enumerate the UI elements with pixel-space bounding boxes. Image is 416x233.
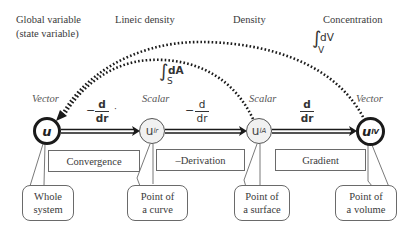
- surface-integral-lower: S: [167, 76, 173, 86]
- callout-point-volume: Point of a volume: [335, 185, 397, 221]
- op2-denominator: dr: [197, 113, 208, 124]
- box-gradient: Gradient: [275, 149, 366, 171]
- surface-integrand: dA: [168, 64, 184, 76]
- type-label-ulr: Scalar: [142, 93, 169, 104]
- node-ulA: ulA: [246, 118, 272, 144]
- op3-numerator: d: [303, 99, 311, 110]
- node-ulr-symbol: u: [146, 124, 154, 138]
- callout-line2: a curve: [142, 203, 173, 216]
- callout-point-curve: Point of a curve: [127, 185, 188, 221]
- callout-point-surface: Point of a surface: [234, 185, 290, 221]
- callout-line2: a surface: [243, 203, 281, 216]
- node-ulV-subscript: lV: [371, 128, 379, 136]
- type-label-ulV: Vector: [356, 93, 383, 104]
- label-lineic-density: Lineic density: [115, 14, 175, 26]
- type-label-ulA: Scalar: [249, 93, 276, 104]
- type-label-u: Vector: [32, 93, 59, 104]
- op3-denominator: dr: [301, 113, 314, 124]
- node-ulA-subscript: lA: [259, 127, 266, 135]
- callout-line1: Point of: [349, 190, 383, 203]
- node-ulA-symbol: u: [252, 124, 260, 138]
- double-arrows: [61, 126, 357, 136]
- diagram-canvas: Global variable (state variable) Lineic …: [0, 0, 416, 233]
- callout-whole-system: Whole system: [22, 185, 74, 221]
- node-ulV: ulV: [356, 117, 385, 146]
- box-convergence: Convergence: [48, 150, 140, 172]
- op1-sign: −: [86, 104, 95, 117]
- label-concentration: Concentration: [323, 14, 382, 26]
- node-ulV-symbol: u: [362, 124, 371, 139]
- label-density: Density: [233, 14, 266, 26]
- op2-sign: −: [185, 104, 194, 117]
- node-ulr: ulr: [139, 118, 165, 144]
- op1-numerator: d: [98, 99, 106, 110]
- callout-line1: Point of: [141, 190, 175, 203]
- op2-numerator: d: [199, 99, 206, 110]
- callout-line1: Whole: [34, 190, 62, 203]
- node-u-symbol: u: [42, 124, 51, 139]
- volume-integral-lower: V: [318, 45, 324, 55]
- op1-dot: ·: [114, 104, 117, 114]
- volume-integrand: dV: [320, 31, 334, 43]
- label-global-variable: Global variable: [16, 14, 81, 26]
- op3-fraction: d dr: [300, 99, 314, 124]
- node-u: u: [33, 117, 61, 145]
- node-ulr-subscript: lr: [153, 127, 158, 135]
- callout-line2: a volume: [347, 203, 386, 216]
- op1-denominator: dr: [96, 113, 109, 124]
- callout-line1: Point of: [245, 190, 279, 203]
- op1-fraction: d dr: [95, 99, 109, 124]
- box-derivation: –Derivation: [156, 149, 245, 171]
- op2-fraction: d dr: [195, 99, 209, 124]
- label-state-variable: (state variable): [16, 28, 79, 40]
- callout-line2: system: [33, 203, 62, 216]
